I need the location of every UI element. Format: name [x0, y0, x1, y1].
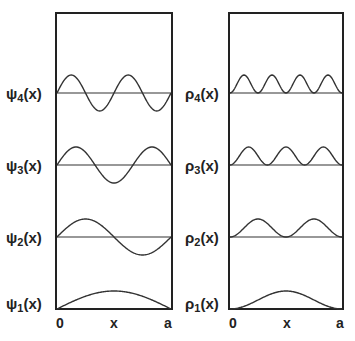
rho-curves — [230, 75, 342, 309]
psi-axis-a: a — [164, 315, 172, 331]
psi-x-axis-labels: 0 x a — [56, 315, 172, 331]
rho3-curve — [230, 147, 342, 165]
rho1-curve — [230, 291, 342, 309]
rho-x-axis-labels: 0 x a — [229, 315, 344, 331]
psi-curves — [57, 75, 171, 309]
psi1-label: ψ1(x) — [6, 295, 42, 314]
psi3-label: ψ3(x) — [6, 157, 42, 176]
rho-axis-x: x — [283, 315, 291, 331]
psi-panel: ψ4(x) ψ3(x) ψ2(x) ψ1(x) 0 x a — [6, 13, 172, 331]
rho2-curve — [230, 219, 342, 237]
rho3-label: ρ3(x) — [185, 157, 219, 176]
rho1-label: ρ1(x) — [185, 295, 219, 314]
psi2-label: ψ2(x) — [6, 229, 42, 248]
psi-axis-x: x — [110, 315, 118, 331]
rho-axis-zero: 0 — [229, 315, 237, 331]
psi-row-labels: ψ4(x) ψ3(x) ψ2(x) ψ1(x) — [6, 85, 42, 314]
rho-panel: ρ4(x) ρ3(x) ρ2(x) ρ1(x) 0 x a — [185, 13, 344, 331]
psi-axis-zero: 0 — [56, 315, 64, 331]
psi-panel-frame — [56, 13, 172, 309]
psi1-curve — [57, 291, 171, 309]
rho-row-labels: ρ4(x) ρ3(x) ρ2(x) ρ1(x) — [185, 85, 219, 314]
rho-panel-frame — [229, 13, 343, 309]
rho4-label: ρ4(x) — [185, 85, 219, 104]
rho4-curve — [230, 75, 342, 93]
rho2-label: ρ2(x) — [185, 229, 219, 248]
rho-axis-a: a — [336, 315, 344, 331]
psi4-label: ψ4(x) — [6, 85, 42, 104]
diagram-canvas: ψ4(x) ψ3(x) ψ2(x) ψ1(x) 0 x a ρ4(x) ρ3(x… — [0, 0, 355, 341]
